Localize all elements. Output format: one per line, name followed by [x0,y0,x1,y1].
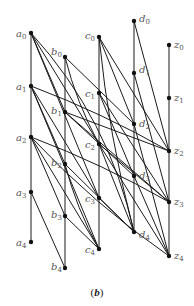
edge-c1-d3 [99,93,134,176]
node-b2 [63,162,67,166]
node-label-d1: d1 [139,64,150,77]
node-label-b0: b0 [51,46,62,59]
node-label-b3: b3 [51,209,62,222]
node-a0 [29,31,33,35]
node-c2 [97,142,101,146]
node-label-d3: d3 [139,170,150,183]
node-label-d0: d0 [139,13,150,26]
node-label-a0: a0 [16,28,26,41]
node-c1 [97,91,101,95]
node-c4 [97,247,101,251]
node-label-d2: d2 [139,118,150,131]
node-label-z0: z0 [173,39,184,52]
node-d4 [132,230,136,234]
node-z4 [167,254,171,258]
node-a2 [29,135,33,139]
node-b4 [63,266,67,270]
node-b1 [63,110,67,114]
node-label-a2: a2 [16,132,26,145]
node-b3 [63,214,67,218]
node-label-z3: z3 [173,196,184,209]
node-a4 [29,240,33,244]
node-z0 [167,43,171,47]
node-z2 [167,149,171,153]
node-label-a3: a3 [16,187,26,200]
node-label-b2: b2 [51,157,62,170]
node-a1 [29,84,33,88]
node-d1 [132,71,136,75]
node-label-c3: c3 [85,193,95,206]
edge-c3-d4 [99,198,134,232]
edge-d0-z2 [134,21,169,151]
node-label-z4: z4 [173,250,184,263]
node-b0 [63,55,67,59]
node-label-c4: c4 [85,244,96,257]
node-label-b1: b1 [51,105,62,118]
edge-d1-z3 [134,73,169,202]
node-label-d4: d4 [139,229,150,242]
node-label-z1: z1 [173,92,184,105]
node-d2 [132,122,136,126]
node-d3 [132,174,136,178]
node-c3 [97,196,101,200]
node-label-a1: a1 [16,81,26,94]
figure-caption: (b) [0,286,194,298]
node-label-a4: a4 [16,237,27,250]
node-label-c0: c0 [85,30,95,43]
node-label-z2: z2 [173,145,184,158]
node-label-c2: c2 [85,139,95,152]
node-label-b4: b4 [51,261,62,274]
node-c0 [97,35,101,39]
node-d0 [132,19,136,23]
node-label-c1: c1 [85,88,95,101]
caption-close: ) [100,286,104,298]
node-a3 [29,190,33,194]
edge-b1-z2 [65,112,169,151]
graph-diagram: a0a1a2a3a4b0b1b2b3b4c0c1c2c3c4d0d1d2d3d4… [0,0,194,306]
node-z1 [167,96,171,100]
edge-a0-b1 [31,33,65,112]
node-z3 [167,200,171,204]
